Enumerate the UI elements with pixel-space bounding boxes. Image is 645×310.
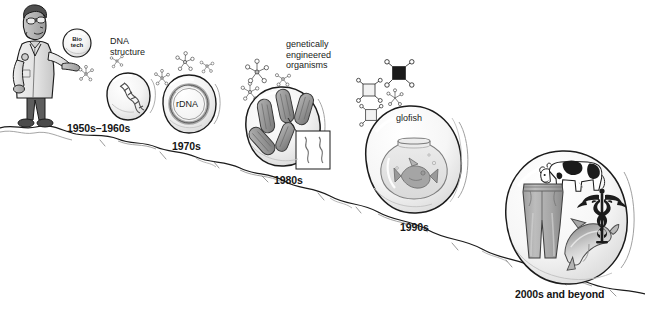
caption-dna-structure: DNA structure (110, 36, 145, 57)
scientist-figure (13, 5, 91, 127)
era-label-1980s: 1980s (274, 174, 303, 186)
era-label-1970s: 1970s (172, 140, 201, 152)
era-label-1990s: 1990s (400, 221, 429, 233)
milestone-bubble-geo (246, 87, 330, 169)
era-label-1950s-1960s: 1950s–1960s (67, 122, 130, 134)
inner-label-rdna: rDNA (176, 99, 198, 110)
era-label-2000s-and-beyond: 2000s and beyond (515, 288, 604, 300)
figure-canvas: Bio tech DNA structure genetically engin… (0, 0, 645, 310)
milestone-bubble-future (506, 151, 634, 284)
biotech-bubble-label: Bio tech (66, 36, 88, 49)
inner-label-glofish: glofish (396, 113, 422, 124)
caption-genetically-engineered-organisms: genetically engineered organisms (286, 39, 331, 71)
milestone-bubble-dna-structure (107, 73, 155, 120)
